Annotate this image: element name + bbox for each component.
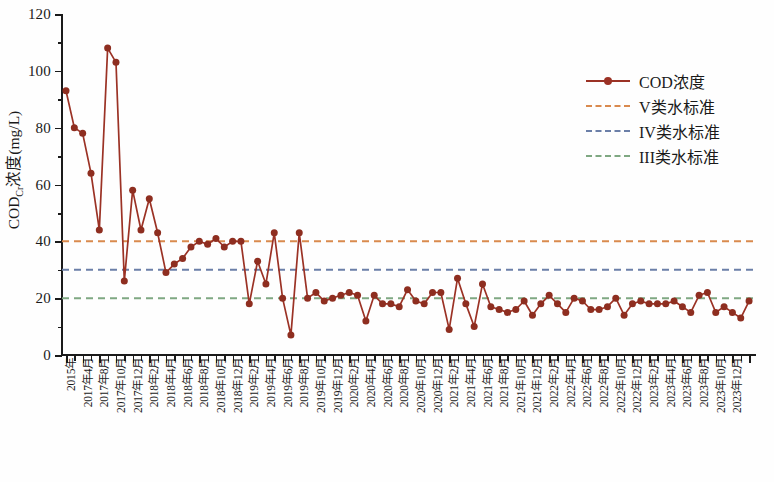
x-axis-tick-label: 2023年6月 bbox=[678, 358, 694, 407]
legend-swatch-icon bbox=[586, 125, 630, 137]
data-point bbox=[162, 269, 169, 276]
y-axis-tick-label: 100 bbox=[28, 62, 51, 79]
x-axis-tick-label: 2021年10月 bbox=[512, 358, 528, 413]
y-axis-tick-label: 40 bbox=[36, 233, 51, 250]
data-point bbox=[496, 306, 503, 313]
data-point bbox=[321, 298, 328, 305]
data-point bbox=[612, 295, 619, 302]
legend-line-icon bbox=[586, 155, 630, 157]
x-axis-tick-label: 2021年12月 bbox=[528, 358, 544, 413]
x-axis-tick-label: 2023年10月 bbox=[712, 358, 728, 413]
data-point bbox=[121, 278, 128, 285]
data-point bbox=[146, 195, 153, 202]
data-point bbox=[204, 241, 211, 248]
data-point bbox=[229, 238, 236, 245]
x-axis-tick-label: 2022年12月 bbox=[628, 358, 644, 413]
x-axis-tick-label: 2022年6月 bbox=[578, 358, 594, 407]
y-axis-tick-minor bbox=[58, 270, 62, 272]
data-point bbox=[262, 280, 269, 287]
legend-item[interactable]: COD浓度 bbox=[586, 68, 720, 93]
data-point bbox=[621, 312, 628, 319]
data-point bbox=[337, 292, 344, 299]
x-axis-tick-label: 2022年10月 bbox=[612, 358, 628, 413]
data-point bbox=[246, 300, 253, 307]
x-axis-tick-label: 2023年12月 bbox=[728, 358, 744, 413]
data-point bbox=[221, 244, 228, 251]
legend-item[interactable]: IV类水标准 bbox=[586, 118, 720, 143]
data-point bbox=[721, 303, 728, 310]
data-point bbox=[196, 238, 203, 245]
data-point bbox=[687, 309, 694, 316]
data-point bbox=[679, 303, 686, 310]
y-axis-tick-label: 60 bbox=[36, 176, 51, 193]
x-axis-tick-label: 2023年2月 bbox=[645, 358, 661, 407]
x-axis-tick-label: 2019年10月 bbox=[312, 358, 328, 413]
data-point bbox=[129, 187, 136, 194]
data-point bbox=[579, 298, 586, 305]
x-axis-tick-label: 2019年6月 bbox=[279, 358, 295, 407]
data-point bbox=[296, 229, 303, 236]
y-axis-tick-major bbox=[55, 14, 62, 16]
x-axis-tick-label: 2018年12月 bbox=[229, 358, 245, 413]
data-point bbox=[529, 312, 536, 319]
data-point bbox=[446, 326, 453, 333]
x-axis-tick-label: 2021年6月 bbox=[479, 358, 495, 407]
data-point bbox=[671, 298, 678, 305]
data-point bbox=[662, 300, 669, 307]
legend-line-icon bbox=[586, 130, 630, 132]
y-axis-tick-minor bbox=[58, 156, 62, 158]
data-point bbox=[429, 289, 436, 296]
y-axis-tick-major bbox=[55, 298, 62, 300]
data-point bbox=[604, 303, 611, 310]
x-axis-tick-label: 2019年2月 bbox=[245, 358, 261, 407]
x-axis-tick-label: 2017年12月 bbox=[129, 358, 145, 413]
data-point bbox=[171, 261, 178, 268]
x-axis-tick-label: 2019年12月 bbox=[329, 358, 345, 413]
legend-swatch-icon bbox=[586, 100, 630, 112]
y-axis-tick-minor bbox=[58, 213, 62, 215]
plot-canvas bbox=[62, 14, 756, 355]
data-point bbox=[704, 289, 711, 296]
y-axis-tick-major bbox=[55, 71, 62, 73]
data-point bbox=[746, 298, 753, 305]
chart-legend: COD浓度V类水标准IV类水标准III类水标准 bbox=[586, 68, 720, 168]
x-axis-tick-labels: 2015年2017年4月2017年8月2017年10月2017年12月2018年… bbox=[62, 358, 762, 480]
y-axis-title-rest: 浓度(mg/L) bbox=[5, 111, 22, 187]
x-axis-tick-label: 2020年2月 bbox=[345, 358, 361, 407]
data-point bbox=[362, 317, 369, 324]
y-axis-tick-label: 80 bbox=[36, 119, 51, 136]
data-point bbox=[646, 300, 653, 307]
data-point bbox=[712, 309, 719, 316]
chart-figure: CODCr浓度(mg/L) 020406080100120 2015年2017年… bbox=[0, 0, 774, 482]
data-point bbox=[96, 226, 103, 233]
legend-label: IV类水标准 bbox=[639, 119, 720, 143]
x-axis-tick-label: 2022年4月 bbox=[562, 358, 578, 407]
data-point bbox=[237, 238, 244, 245]
data-point bbox=[504, 309, 511, 316]
data-point bbox=[562, 309, 569, 316]
data-point bbox=[63, 87, 70, 94]
data-point bbox=[554, 300, 561, 307]
y-axis-tick-label: 0 bbox=[43, 347, 51, 364]
plot-area: 020406080100120 bbox=[62, 14, 756, 355]
data-point bbox=[487, 303, 494, 310]
data-point bbox=[412, 298, 419, 305]
x-axis-tick-label: 2018年10月 bbox=[212, 358, 228, 413]
legend-label: III类水标准 bbox=[639, 144, 719, 168]
data-point bbox=[696, 292, 703, 299]
legend-item[interactable]: V类水标准 bbox=[586, 93, 720, 118]
data-point bbox=[729, 309, 736, 316]
x-axis-tick-label: 2021年8月 bbox=[495, 358, 511, 407]
y-axis-title-main: COD bbox=[5, 197, 22, 230]
legend-item[interactable]: III类水标准 bbox=[586, 143, 720, 168]
data-point bbox=[371, 292, 378, 299]
data-point bbox=[512, 306, 519, 313]
legend-label: COD浓度 bbox=[639, 69, 705, 93]
legend-label: V类水标准 bbox=[639, 94, 715, 118]
data-point bbox=[454, 275, 461, 282]
data-point bbox=[137, 226, 144, 233]
data-point bbox=[737, 315, 744, 322]
y-axis-tick-minor bbox=[58, 99, 62, 101]
data-point bbox=[437, 289, 444, 296]
data-point bbox=[637, 298, 644, 305]
